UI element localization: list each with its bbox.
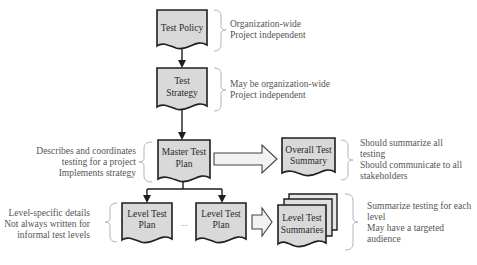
node-label-line2: Plan [139, 220, 156, 230]
note-line: Not always written for [4, 219, 90, 230]
brace-level-test-plan [105, 203, 117, 242]
note-line: level [367, 212, 471, 223]
node-label-line1: Level Test [201, 209, 241, 219]
node-label-line1: Level Test [127, 209, 167, 219]
node-label-line1: Master Test [162, 147, 207, 157]
note-test-strategy: May be organization-wide Project indepen… [230, 79, 330, 101]
hollow-arrow-master-to-summary [214, 145, 277, 173]
node-overall-test-summary: Overall Test Summary [282, 138, 335, 176]
node-label-line2: Plan [176, 159, 193, 169]
ellipsis: ... [180, 218, 187, 228]
node-level-test-summaries: Level Test Summaries [278, 194, 337, 247]
note-line: Organization-wide [230, 19, 306, 30]
note-line: Level-specific details [4, 208, 90, 219]
node-test-strategy: Test Strategy [157, 68, 207, 110]
node-label-line2: Plan [213, 220, 230, 230]
note-line: audience [367, 234, 471, 245]
note-line: May have a targeted [367, 223, 471, 234]
brace-overall-test-summary [341, 140, 353, 180]
note-line: stakeholders [360, 171, 462, 182]
note-line: Describes and coordinates [36, 146, 136, 157]
brace-master-test-plan [139, 142, 152, 182]
note-line: Project independent [230, 30, 306, 41]
note-line: Project independent [230, 90, 330, 101]
fork-master-to-level-plans [147, 181, 222, 199]
brace-level-test-summaries [345, 194, 358, 250]
note-line: Implements strategy [36, 168, 136, 179]
node-label-line2: Summaries [281, 225, 324, 235]
node-label-line1: Overall Test [285, 145, 332, 155]
node-test-policy: Test Policy [157, 10, 207, 49]
brace-test-strategy [214, 68, 226, 111]
node-level-test-plan-2: Level Test Plan [196, 203, 246, 243]
note-level-test-summaries: Summarize testing for each level May hav… [367, 201, 471, 245]
node-label-line1: Test [174, 76, 190, 86]
note-overall-test-summary: Should summarize all testing Should comm… [360, 138, 462, 182]
note-line: May be organization-wide [230, 79, 330, 90]
node-label-line2: Strategy [166, 88, 198, 98]
node-level-test-plan-1: Level Test Plan [122, 203, 172, 243]
note-line: Should communicate to all [360, 160, 462, 171]
node-master-test-plan: Master Test Plan [158, 140, 210, 182]
node-label-line2: Summary [290, 156, 327, 166]
note-master-test-plan: Describes and coordinates testing for a … [36, 146, 136, 179]
note-level-test-plan: Level-specific details Not always writte… [4, 208, 90, 241]
node-label: Test Policy [161, 23, 204, 33]
note-line: informal test levels [4, 230, 90, 241]
brace-test-policy [214, 10, 226, 51]
note-line: testing for a project [36, 157, 136, 168]
note-line: testing [360, 149, 462, 160]
note-line: Summarize testing for each [367, 201, 471, 212]
note-line: Should summarize all [360, 138, 462, 149]
node-label-line1: Level Test [282, 213, 322, 223]
note-test-policy: Organization-wide Project independent [230, 19, 306, 41]
hollow-arrow-plan-to-summaries [252, 208, 272, 236]
